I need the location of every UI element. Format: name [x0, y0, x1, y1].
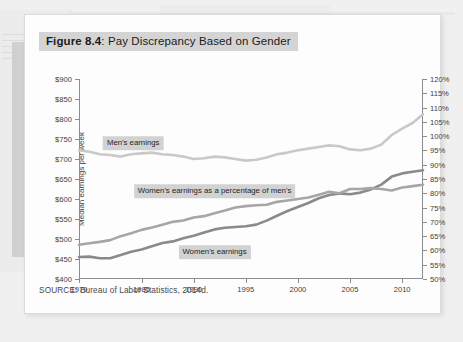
x-axis-tick	[142, 279, 143, 283]
series-inline-label: Men's earnings	[103, 136, 164, 150]
y-axis-left-tick-label: $450	[55, 255, 72, 264]
x-axis-tick	[194, 279, 195, 283]
y-axis-right-tick	[423, 279, 427, 280]
y-axis-right-tick-label: 120%	[430, 75, 449, 84]
y-axis-right-tick	[423, 122, 427, 123]
figure-title-text: : Pay Discrepancy Based on Gender	[101, 35, 290, 47]
y-axis-right-tick-label: 75%	[430, 203, 445, 212]
x-axis-tick	[298, 279, 299, 283]
y-axis-right-tick	[423, 222, 427, 223]
source-note: SOURCE: Bureau of Labor Statistics, 2014…	[39, 285, 208, 295]
y-axis-right-tick	[423, 79, 427, 80]
y-axis-right-tick-label: 50%	[430, 275, 445, 284]
series-inline-label: Women's earnings	[178, 245, 250, 259]
y-axis-right-tick	[423, 236, 427, 237]
x-axis-tick	[79, 279, 80, 283]
y-axis-right-tick	[423, 179, 427, 180]
y-axis-right-tick-label: 85%	[430, 175, 445, 184]
x-axis-tick-label: 1995	[237, 285, 254, 294]
series-inline-label: Women's earnings as a percentage of men'…	[134, 184, 296, 198]
x-axis-tick	[246, 279, 247, 283]
y-axis-left-tick-label: $650	[55, 175, 72, 184]
y-axis-right-tick-label: 115%	[430, 89, 449, 98]
y-axis-right-tick-label: 60%	[430, 246, 445, 255]
y-axis-right-tick-label: 105%	[430, 117, 449, 126]
y-axis-left-tick-label: $500	[55, 235, 72, 244]
y-axis-right-tick-label: 55%	[430, 260, 445, 269]
y-axis-right-tick-label: 70%	[430, 217, 445, 226]
chart-series-lines	[79, 79, 423, 279]
y-axis-right-tick	[423, 165, 427, 166]
chart-plot-area: Median earnings per week $900$850$800$75…	[79, 79, 423, 279]
y-axis-right-tick	[423, 150, 427, 151]
x-axis-tick	[350, 279, 351, 283]
y-axis-right-tick-label: 110%	[430, 103, 449, 112]
page-title: Figure 8.4: Pay Discrepancy Based on Gen…	[39, 32, 298, 51]
figure-card: Figure 8.4: Pay Discrepancy Based on Gen…	[24, 14, 441, 314]
x-axis-tick-label: 2000	[289, 285, 306, 294]
y-axis-right-tick-label: 80%	[430, 189, 445, 198]
y-axis-left-tick-label: $850	[55, 95, 72, 104]
figure-number: Figure 8.4	[46, 35, 101, 47]
x-axis-tick	[402, 279, 403, 283]
figure-title-container: Figure 8.4: Pay Discrepancy Based on Gen…	[39, 31, 298, 51]
y-axis-right-tick-label: 100%	[430, 132, 449, 141]
y-axis-left-tick-label: $900	[55, 75, 72, 84]
y-axis-left-tick-label: $600	[55, 195, 72, 204]
y-axis-right-tick	[423, 265, 427, 266]
y-axis-left-tick-label: $550	[55, 215, 72, 224]
y-axis-right-tick	[423, 193, 427, 194]
x-axis-tick-label: 2010	[394, 285, 411, 294]
y-axis-left-tick-label: $400	[55, 275, 72, 284]
y-axis-right-tick	[423, 93, 427, 94]
y-axis-left-tick-label: $750	[55, 135, 72, 144]
y-axis-right-tick-label: 65%	[430, 232, 445, 241]
y-axis-left-tick-label: $800	[55, 115, 72, 124]
y-axis-left-tick-label: $700	[55, 155, 72, 164]
y-axis-right-tick	[423, 208, 427, 209]
y-axis-right-tick	[423, 250, 427, 251]
x-axis-tick-label: 2005	[342, 285, 359, 294]
y-axis-right-tick-label: 95%	[430, 146, 445, 155]
y-axis-right-tick-label: 90%	[430, 160, 445, 169]
y-axis-right-tick	[423, 136, 427, 137]
y-axis-right-tick	[423, 108, 427, 109]
